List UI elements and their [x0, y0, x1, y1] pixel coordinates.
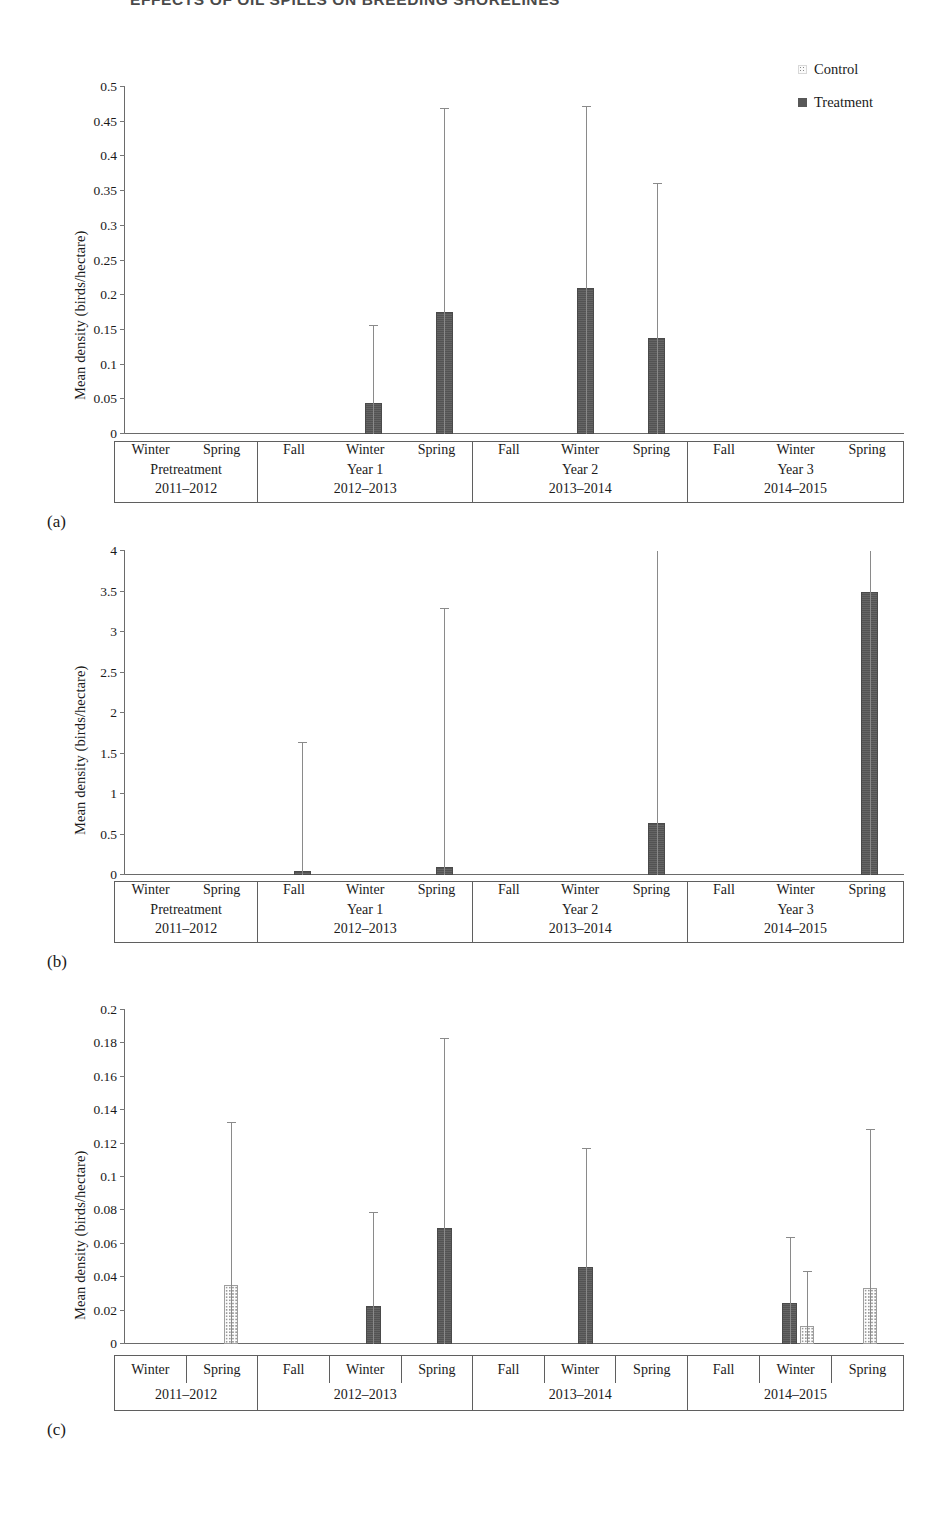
x-axis-group: FallWinterSpring2013–2014	[473, 1356, 688, 1410]
x-axis-line-a	[125, 433, 904, 434]
x-axis-group-years: 2013–2014	[549, 1386, 612, 1405]
x-axis-season-label: Spring	[616, 882, 687, 898]
plot-area-c: 00.020.040.060.080.10.120.140.160.180.2	[124, 1010, 904, 1344]
x-axis-group: FallWinterSpringYear 32014–2015	[688, 442, 903, 502]
y-tick-label: 0.04	[93, 1269, 117, 1285]
x-axis-group: FallWinterSpringYear 32014–2015	[688, 882, 903, 942]
x-axis-group: FallWinterSpringYear 12012–2013	[258, 442, 473, 502]
x-axis-season-label: Spring	[187, 1356, 258, 1383]
bar-slot	[366, 1010, 381, 1344]
y-tick	[120, 1176, 125, 1177]
y-tick	[120, 591, 125, 592]
y-tick-label: 0.1	[100, 1169, 117, 1185]
bar-slot	[782, 1010, 797, 1344]
x-axis-season-label: Winter	[115, 442, 186, 458]
y-tick	[120, 433, 125, 434]
y-tick	[120, 329, 125, 330]
x-axis-season-label: Spring	[616, 442, 687, 458]
x-axis-group-years: 2014–2015	[764, 920, 827, 939]
plot-area-b: 00.511.522.533.54	[124, 551, 904, 875]
x-axis-season-label: Winter	[330, 1356, 402, 1383]
y-tick-label: 2	[110, 705, 117, 721]
x-axis-group-label: Year 12012–2013	[258, 898, 472, 944]
x-axis-group: WinterSpring2011–2012	[115, 1356, 258, 1410]
error-bar-cap	[440, 108, 449, 109]
y-tick	[120, 1310, 125, 1311]
y-tick-label: 0.45	[93, 114, 117, 130]
x-axis-season-row: FallWinterSpring	[258, 882, 472, 898]
y-tick-label: 0.18	[93, 1035, 117, 1051]
y-tick-label: 0.4	[100, 148, 117, 164]
y-tick-label: 0.12	[93, 1136, 117, 1152]
x-axis-group-years: 2013–2014	[549, 480, 612, 499]
error-bar-cap	[298, 742, 307, 743]
figure-page: EFFECTS OF OIL SPILLS ON BREEDING SHOREL…	[0, 0, 946, 1535]
x-axis-group-label: 2012–2013	[258, 1383, 472, 1410]
x-axis-group-years: 2012–2013	[334, 1386, 397, 1405]
chart-panel-a: Mean density (birds/hectare) 00.050.10.1…	[0, 0, 946, 510]
x-axis-group-label: 2014–2015	[688, 1383, 903, 1410]
y-axis-title-b: Mean density (birds/hectare)	[72, 666, 89, 836]
x-axis-group: FallWinterSpringYear 22013–2014	[473, 882, 688, 942]
x-axis-season-row: FallWinterSpring	[688, 1356, 903, 1383]
y-tick-label: 0.06	[93, 1236, 117, 1252]
y-tick-label: 4	[110, 543, 117, 559]
x-axis-group: FallWinterSpring2014–2015	[688, 1356, 903, 1410]
x-axis-season-label: Spring	[401, 882, 472, 898]
error-bar-cap	[866, 1129, 875, 1130]
x-axis-season-row: FallWinterSpring	[688, 442, 903, 458]
y-tick-label: 0.3	[100, 218, 117, 234]
y-tick	[120, 155, 125, 156]
x-axis-group-years: 2012–2013	[334, 480, 397, 499]
x-axis-group-label: 2011–2012	[115, 1383, 257, 1410]
error-bar-cap	[786, 1237, 795, 1238]
x-axis-season-label: Fall	[258, 882, 329, 898]
y-tick	[120, 1042, 125, 1043]
x-axis-group: FallWinterSpring2012–2013	[258, 1356, 473, 1410]
x-axis-season-label: Fall	[473, 442, 544, 458]
error-bar	[790, 1237, 791, 1344]
x-axis-season-row: FallWinterSpring	[258, 1356, 472, 1383]
x-axis-line-b	[125, 874, 904, 875]
x-axis-group-label: Year 32014–2015	[688, 898, 903, 944]
y-tick	[120, 190, 125, 191]
x-axis-group-name: Year 3	[777, 461, 813, 480]
x-axis-season-label: Winter	[760, 882, 832, 898]
x-axis-season-row: WinterSpring	[115, 882, 257, 898]
y-tick-label: 3.5	[100, 584, 117, 600]
y-tick-label: 3	[110, 624, 117, 640]
error-bar	[444, 1038, 445, 1344]
bar-slot	[648, 87, 665, 434]
error-bar	[870, 551, 871, 875]
x-axis-group-years: 2013–2014	[549, 920, 612, 939]
bar-slot	[861, 551, 878, 875]
x-axis-season-label: Winter	[545, 1356, 617, 1383]
y-tick	[120, 1109, 125, 1110]
x-axis-season-label: Fall	[473, 882, 544, 898]
error-bar	[586, 106, 587, 434]
y-axis-title-c: Mean density (birds/hectare)	[72, 1151, 89, 1321]
x-axis-season-label: Fall	[258, 442, 329, 458]
y-tick-label: 0.16	[93, 1069, 117, 1085]
x-axis-season-label: Winter	[544, 882, 615, 898]
y-tick-label: 0.35	[93, 183, 117, 199]
y-tick-label: 0.2	[100, 1002, 117, 1018]
x-axis-group-years: 2011–2012	[155, 1386, 217, 1405]
x-axis-season-row: FallWinterSpring	[688, 882, 903, 898]
error-bar	[807, 1271, 808, 1344]
y-tick	[120, 398, 125, 399]
x-axis-season-row: WinterSpring	[115, 1356, 257, 1383]
x-axis-season-label: Fall	[688, 1356, 760, 1383]
bar-slot	[365, 87, 382, 434]
x-axis-season-label: Spring	[186, 442, 257, 458]
error-bar	[870, 1129, 871, 1344]
bar-slot	[578, 1010, 593, 1344]
x-axis-season-label: Spring	[402, 1356, 473, 1383]
bar-slot	[436, 87, 453, 434]
x-axis-label-table-a: WinterSpringPretreatment2011–2012FallWin…	[114, 441, 904, 503]
y-tick	[120, 1009, 125, 1010]
x-axis-group-label: Year 22013–2014	[473, 898, 687, 944]
y-tick	[120, 260, 125, 261]
y-tick	[120, 753, 125, 754]
x-axis-season-label: Winter	[760, 442, 832, 458]
